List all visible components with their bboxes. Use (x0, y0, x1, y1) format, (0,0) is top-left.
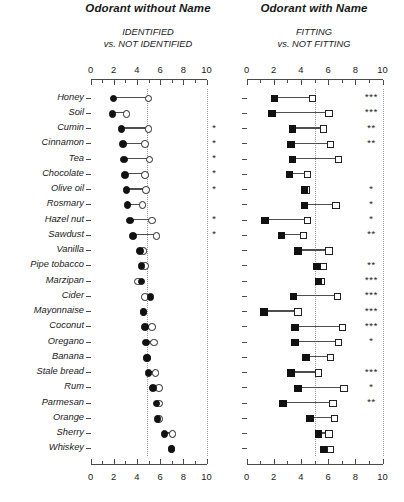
row-label-whiskey: Whiskey (0, 442, 84, 452)
row-tick-without-name-8 (86, 220, 91, 221)
axis-label-with-name-top-2: 2 (266, 64, 282, 75)
row-tick-without-name-9 (86, 235, 91, 236)
axis-tick-with-name-top-5 (315, 80, 316, 83)
marker-open-with-name-2 (320, 125, 327, 132)
connector-with-name-7 (304, 204, 335, 205)
row-tick-without-name-14 (86, 311, 91, 312)
marker-filled-with-name-1 (268, 110, 275, 117)
row-tick-with-name-15 (242, 326, 247, 327)
row-tick-without-name-5 (86, 174, 91, 175)
marker-open-with-name-16 (335, 339, 342, 346)
marker-open-without-name-15 (148, 323, 156, 331)
marker-filled-without-name-0 (110, 95, 118, 103)
marker-filled-without-name-11 (138, 262, 146, 270)
row-tick-with-name-23 (242, 448, 247, 449)
marker-open-with-name-3 (327, 141, 334, 148)
row-label-oregano: Oregano (0, 336, 84, 346)
marker-open-with-name-4 (335, 156, 342, 163)
axis-tick-without-name-top-7 (172, 80, 173, 83)
axis-tick-without-name-bottom-2 (114, 459, 115, 464)
significance-without-name-8: * (198, 213, 230, 224)
row-tick-with-name-3 (242, 143, 247, 144)
marker-filled-without-name-18 (145, 369, 153, 377)
marker-filled-without-name-21 (154, 415, 162, 423)
marker-filled-with-name-8 (261, 217, 268, 224)
significance-with-name-1: *** (355, 106, 387, 117)
connector-with-name-2 (291, 127, 322, 128)
row-label-cinnamon: Cinnamon (0, 137, 84, 147)
marker-filled-with-name-5 (286, 171, 293, 178)
marker-open-with-name-14 (294, 308, 301, 315)
axis-tick-without-name-bottom-8 (183, 459, 184, 464)
marker-open-without-name-16 (150, 339, 158, 347)
axis-tick-with-name-bottom-8 (355, 459, 356, 464)
significance-with-name-19: * (355, 381, 387, 392)
marker-filled-without-name-15 (141, 323, 149, 331)
axis-tick-without-name-top-5 (149, 80, 150, 83)
marker-open-with-name-0 (309, 95, 316, 102)
marker-filled-without-name-9 (129, 232, 137, 240)
axis-line-with-name-bottom (247, 464, 383, 465)
axis-tick-with-name-top-7 (342, 80, 343, 83)
row-label-coconut: Coconut (0, 320, 84, 330)
axis-label-with-name-top-6: 6 (320, 64, 336, 75)
marker-open-with-name-7 (332, 202, 339, 209)
axis-label-with-name-bottom-2: 2 (266, 471, 282, 482)
axis-tick-with-name-bottom-3 (287, 461, 288, 464)
marker-open-with-name-13 (334, 293, 341, 300)
row-label-olive-oil: Olive oil (0, 183, 84, 193)
marker-filled-with-name-23 (320, 446, 327, 453)
axis-label-without-name-top-10: 10 (199, 64, 215, 75)
axis-tick-with-name-bottom-6 (328, 459, 329, 464)
marker-open-with-name-19 (340, 385, 347, 392)
marker-open-with-name-18 (315, 369, 322, 376)
marker-open-without-name-5 (141, 171, 149, 179)
axis-label-without-name-bottom-10: 10 (199, 471, 215, 482)
marker-filled-without-name-8 (126, 217, 134, 225)
axis-label-with-name-bottom-6: 6 (320, 471, 336, 482)
significance-with-name-2: ** (355, 122, 387, 133)
axis-tick-without-name-top-4 (137, 80, 138, 85)
marker-open-without-name-7 (139, 201, 147, 209)
row-label-rum: Rum (0, 381, 84, 391)
axis-label-with-name-top-10: 10 (375, 64, 391, 75)
marker-open-without-name-6 (142, 186, 150, 194)
significance-with-name-0: *** (355, 91, 387, 102)
row-label-soil: Soil (0, 107, 84, 117)
row-label-stale-bread: Stale bread (0, 366, 84, 376)
axis-tick-with-name-top-1 (260, 80, 261, 83)
row-label-vanilla: Vanilla (0, 244, 84, 254)
axis-label-without-name-bottom-8: 8 (175, 471, 191, 482)
row-tick-with-name-6 (242, 189, 247, 190)
significance-with-name-7: * (355, 198, 387, 209)
row-tick-with-name-14 (242, 311, 247, 312)
panel-subtitle2-with-name: vs. NOT FITTING (204, 39, 404, 50)
axis-tick-without-name-top-8 (183, 80, 184, 85)
axis-tick-without-name-bottom-9 (195, 461, 196, 464)
axis-tick-with-name-bottom-9 (369, 461, 370, 464)
connector-without-name-0 (113, 97, 148, 98)
marker-open-without-name-8 (148, 217, 156, 225)
significance-with-name-11: ** (355, 259, 387, 270)
connector-with-name-10 (297, 249, 328, 250)
axis-label-without-name-bottom-6: 6 (152, 471, 168, 482)
marker-filled-with-name-13 (290, 293, 297, 300)
axis-label-without-name-bottom-4: 4 (129, 471, 145, 482)
connector-with-name-16 (294, 341, 338, 342)
marker-filled-with-name-16 (291, 339, 298, 346)
row-tick-without-name-2 (86, 128, 91, 129)
axis-tick-without-name-bottom-3 (125, 461, 126, 464)
axis-tick-without-name-top-9 (195, 80, 196, 83)
connector-with-name-20 (282, 402, 332, 403)
axis-label-without-name-bottom-2: 2 (106, 471, 122, 482)
row-tick-without-name-1 (86, 113, 91, 114)
row-tick-with-name-8 (242, 220, 247, 221)
marker-open-without-name-22 (169, 430, 177, 438)
significance-with-name-16: * (355, 335, 387, 346)
marker-filled-without-name-10 (136, 247, 144, 255)
row-tick-with-name-18 (242, 372, 247, 373)
marker-open-with-name-20 (329, 400, 336, 407)
marker-open-without-name-1 (123, 110, 131, 118)
axis-tick-with-name-top-4 (301, 80, 302, 85)
marker-filled-without-name-17 (143, 354, 151, 362)
